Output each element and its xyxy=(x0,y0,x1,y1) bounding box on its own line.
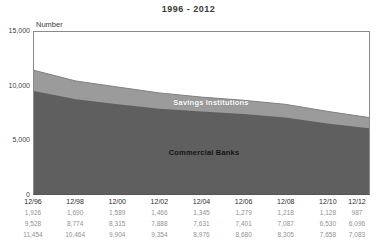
table-cell: 6,096 xyxy=(338,220,376,227)
chart-title: 1996 - 2012 xyxy=(0,4,377,14)
table-cell: 9,354 xyxy=(140,231,178,238)
x-axis-label: 12/12 xyxy=(338,198,376,205)
table-cell: 7,087 xyxy=(267,220,305,227)
x-axis-label: 12/06 xyxy=(225,198,263,205)
table-cell: 7,401 xyxy=(225,220,263,227)
table-cell: 1,466 xyxy=(140,209,178,216)
chart-figure: 1996 - 2012 Number Savings Institutions … xyxy=(0,0,377,245)
table-cell: 1,690 xyxy=(56,209,94,216)
table-cell: 7,888 xyxy=(140,220,178,227)
x-axis-label: 12/04 xyxy=(183,198,221,205)
y-tick-label: 15,000 xyxy=(0,27,30,35)
x-axis-label: 12/08 xyxy=(267,198,305,205)
table-cell: 8,976 xyxy=(183,231,221,238)
table-cell: 1,279 xyxy=(225,209,263,216)
x-axis-label: 12/02 xyxy=(140,198,178,205)
table-cell: 11,454 xyxy=(14,231,52,238)
table-cell: 1,589 xyxy=(98,209,136,216)
table-cell: 7,631 xyxy=(183,220,221,227)
table-cell: 8,680 xyxy=(225,231,263,238)
table-cell: 8,305 xyxy=(267,231,305,238)
table-cell: 7,083 xyxy=(338,231,376,238)
table-cell: 9,528 xyxy=(14,220,52,227)
table-cell: 1,345 xyxy=(183,209,221,216)
table-cell: 9,904 xyxy=(98,231,136,238)
area-label-commercial-banks: Commercial Banks xyxy=(169,148,240,157)
table-cell: 1,926 xyxy=(14,209,52,216)
y-axis-unit-label: Number xyxy=(36,20,63,29)
table-cell: 8,774 xyxy=(56,220,94,227)
x-axis-label: 12/98 xyxy=(56,198,94,205)
plot-area: Savings Institutions Commercial Banks xyxy=(33,31,370,195)
y-tick-label: 10,000 xyxy=(0,82,30,90)
table-cell: 1,218 xyxy=(267,209,305,216)
stacked-area-chart xyxy=(34,32,369,194)
y-tick-label: 5,000 xyxy=(0,136,30,144)
x-axis-label: 12/96 xyxy=(14,198,52,205)
x-axis-label: 12/00 xyxy=(98,198,136,205)
area-label-savings-institutions: Savings Institutions xyxy=(173,98,248,107)
table-cell: 10,464 xyxy=(56,231,94,238)
table-cell: 987 xyxy=(338,209,376,216)
table-cell: 8,315 xyxy=(98,220,136,227)
